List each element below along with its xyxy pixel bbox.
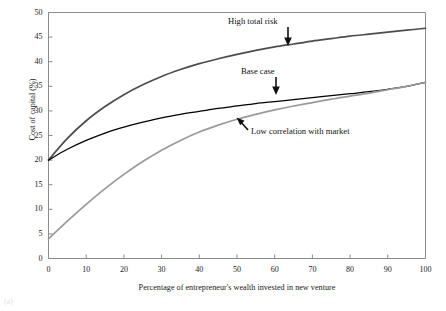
- x-tick-label: 10: [71, 265, 101, 274]
- y-tick-label: 20: [21, 155, 43, 164]
- annotation-arrows: [237, 27, 292, 130]
- annotation-label-low-correlation: Low correlation with market: [251, 126, 350, 136]
- axis-ticks: [49, 13, 426, 259]
- y-tick-label: 50: [21, 8, 43, 17]
- y-tick-label: 35: [21, 81, 43, 90]
- x-tick-label: 80: [335, 265, 365, 274]
- y-tick-label: 0: [21, 254, 43, 263]
- x-tick-label: 60: [260, 265, 290, 274]
- figure-caption-stub: (a): [4, 297, 13, 306]
- x-tick-label: 90: [373, 265, 403, 274]
- y-tick-label: 40: [21, 57, 43, 66]
- y-tick-label: 45: [21, 32, 43, 41]
- x-tick-label: 100: [411, 265, 441, 274]
- y-tick-label: 30: [21, 106, 43, 115]
- x-tick-label: 20: [109, 265, 139, 274]
- x-tick-label: 50: [222, 265, 252, 274]
- x-tick-label: 40: [184, 265, 214, 274]
- plot-frame: [49, 13, 426, 259]
- y-tick-label: 15: [21, 180, 43, 189]
- figure-container: Cost of capital (%) Percentage of entrep…: [0, 0, 446, 311]
- annotation-label-high-total-risk: High total risk: [228, 16, 278, 26]
- y-tick-label: 10: [21, 204, 43, 213]
- x-axis-title: Percentage of entrepreneur's wealth inve…: [48, 283, 426, 292]
- annotation-label-base-case: Base case: [241, 66, 275, 76]
- x-tick-label: 70: [297, 265, 327, 274]
- y-tick-label: 5: [21, 229, 43, 238]
- x-tick-label: 30: [147, 265, 177, 274]
- y-tick-label: 25: [21, 131, 43, 140]
- x-tick-label: 0: [34, 265, 64, 274]
- data-series-group: [49, 28, 426, 239]
